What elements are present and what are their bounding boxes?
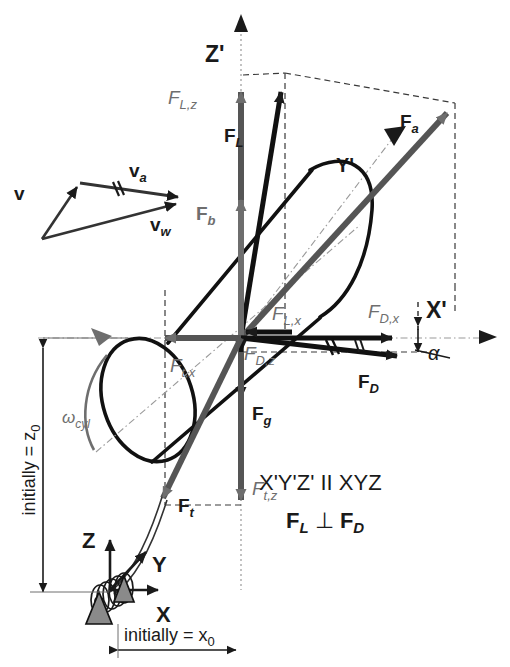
x-axis-label: X <box>156 602 171 627</box>
vector-v-label: v <box>14 183 25 204</box>
note-axes-parallel: X'Y'Z' II XYZ <box>259 470 382 495</box>
note-lift-perp-drag: FL ⊥ FD <box>286 508 364 536</box>
z-axis-label: Z <box>82 528 95 553</box>
alpha-angle-label: α <box>428 342 440 364</box>
z-prime-axis-label: Z' <box>205 41 225 67</box>
force-diagram-svg: Z' X' Y' ωcyl <box>0 0 510 667</box>
y-axis-label: Y <box>152 552 167 577</box>
x-prime-axis-label: X' <box>426 297 447 323</box>
diagram-canvas: Z' X' Y' ωcyl <box>0 0 510 667</box>
